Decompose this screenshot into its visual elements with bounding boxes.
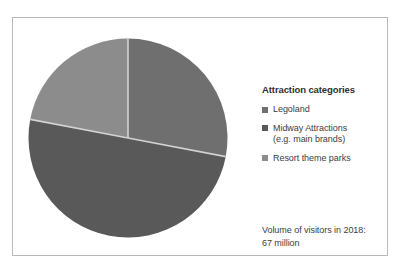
legend-title: Attraction categories (262, 84, 397, 95)
legend-swatch-icon (262, 125, 268, 131)
legend-item-label: Legoland (273, 104, 310, 116)
caption-line-1: Volume of visitors in 2018: (262, 224, 402, 237)
volume-caption: Volume of visitors in 2018: 67 million (262, 224, 402, 249)
pie-chart-svg (28, 38, 228, 238)
figure-frame: Attraction categories Legoland Midway At… (12, 17, 388, 256)
legend-item-resort-theme-parks[interactable]: Resort theme parks (262, 153, 397, 165)
legend-item-sublabel: (e.g. main brands) (273, 134, 347, 146)
legend-item-label: Midway Attractions (e.g. main brands) (273, 123, 347, 146)
legend: Attraction categories Legoland Midway At… (262, 84, 397, 171)
legend-item-legoland[interactable]: Legoland (262, 104, 397, 116)
legend-swatch-icon (262, 155, 268, 161)
caption-line-2: 67 million (262, 237, 402, 250)
legend-item-midway-attractions[interactable]: Midway Attractions (e.g. main brands) (262, 123, 397, 146)
pie-slice-legoland[interactable] (128, 39, 228, 157)
legend-swatch-icon (262, 107, 268, 113)
pie-chart (28, 38, 228, 238)
legend-item-label: Resort theme parks (273, 153, 351, 165)
